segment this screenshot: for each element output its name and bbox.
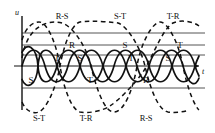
- label-tr-top: T-R: [167, 12, 179, 21]
- y-axis-label: u: [15, 9, 19, 17]
- x-axis-label: t: [202, 68, 204, 76]
- waveform-figure: u t R-S S-T T-R R S T T S T S S T R S-T …: [0, 0, 215, 133]
- label-t-peak: T: [177, 41, 182, 50]
- label-r-peak: R: [69, 41, 75, 50]
- label-s-mid-2: S: [166, 54, 171, 63]
- label-s-peak: S: [123, 41, 128, 50]
- label-st-bottom: S-T: [33, 114, 45, 123]
- label-rs-bottom: R-S: [140, 114, 153, 123]
- label-s-trough: S: [29, 76, 34, 85]
- label-t-trough: T: [87, 76, 92, 85]
- label-tr-bottom: T-R: [80, 114, 92, 123]
- label-r-trough: R: [143, 76, 149, 85]
- line-curve-st: [22, 21, 189, 113]
- label-s-mid-1: S: [78, 54, 83, 63]
- label-st-top: S-T: [114, 12, 126, 21]
- label-t-mid-1: T: [54, 54, 59, 63]
- label-t-mid-2: T: [128, 54, 133, 63]
- label-rs-top: R-S: [56, 12, 69, 21]
